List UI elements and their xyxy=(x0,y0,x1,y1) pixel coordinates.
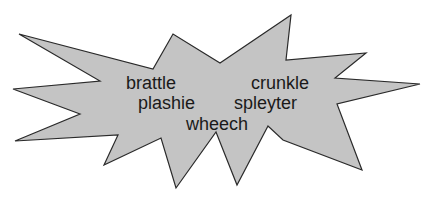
word-brattle: brattle xyxy=(126,73,176,93)
starburst-diagram: brattle plashie wheech crunkle spleyter xyxy=(0,0,439,216)
word-plashie: plashie xyxy=(138,93,195,113)
word-wheech: wheech xyxy=(185,114,248,134)
word-spleyter: spleyter xyxy=(234,93,297,113)
starburst-shape xyxy=(13,15,420,188)
word-crunkle: crunkle xyxy=(251,73,309,93)
